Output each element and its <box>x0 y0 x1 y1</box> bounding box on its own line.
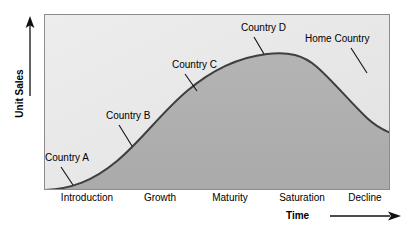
annotation-home-country: Home Country <box>305 33 369 44</box>
arrow-right-icon <box>326 209 402 223</box>
annotation-country-d: Country D <box>241 22 286 33</box>
annotation-country-a: Country A <box>45 152 89 163</box>
x-tick-decline: Decline <box>322 192 408 203</box>
y-axis: Unit Sales <box>0 14 44 190</box>
x-axis-title: Time <box>286 210 309 221</box>
x-axis: Time <box>286 208 408 228</box>
y-axis-title: Unit Sales <box>14 49 25 139</box>
product-life-cycle-chart: Unit Sales <box>0 0 408 232</box>
annotation-country-b: Country B <box>106 110 150 121</box>
annotation-country-c: Country C <box>172 59 217 70</box>
x-axis-tick-labels: Introduction Growth Maturity Saturation … <box>44 192 390 208</box>
